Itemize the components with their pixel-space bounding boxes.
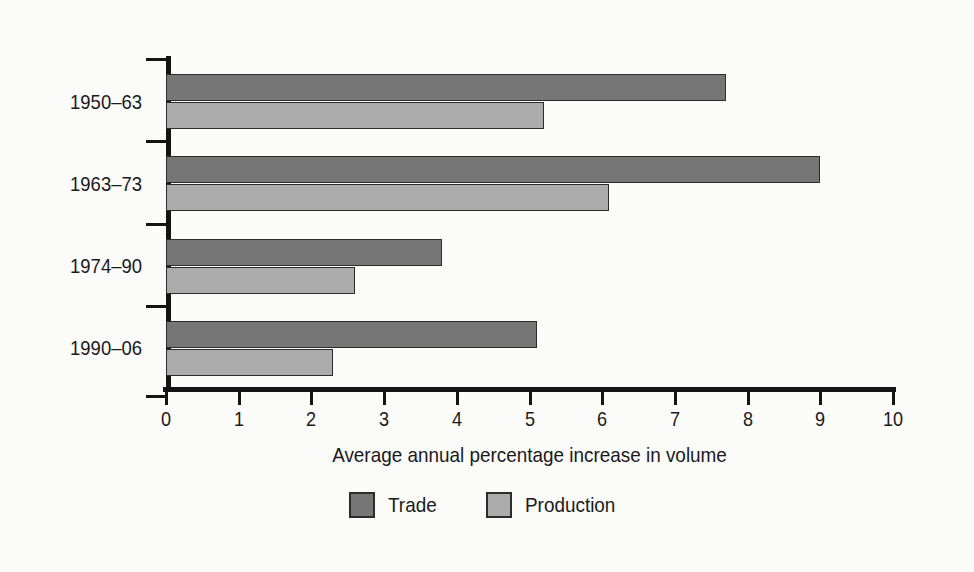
- x-axis-tick: [674, 392, 677, 405]
- y-axis-group-tick: [146, 395, 167, 398]
- bar-trade-1990-06: [166, 321, 537, 348]
- bar-production-1950-63: [166, 102, 544, 129]
- x-axis-title: Average annual percentage increase in vo…: [202, 443, 856, 467]
- x-axis-tick: [310, 392, 313, 405]
- x-axis-tick-label: 7: [658, 407, 692, 431]
- x-axis-tick-label: 1: [221, 407, 255, 431]
- x-axis-tick: [892, 392, 895, 405]
- x-axis-tick: [601, 392, 604, 405]
- chart-legend: Trade Production: [0, 492, 974, 518]
- category-label: 1950–63: [28, 91, 142, 113]
- category-label: 1974–90: [28, 255, 142, 277]
- legend-item-production: Production: [486, 492, 625, 518]
- category-label: 1990–06: [28, 337, 142, 359]
- bar-production-1974-90: [166, 267, 355, 294]
- x-axis-tick: [238, 392, 241, 405]
- y-axis-group-tick: [146, 140, 167, 143]
- legend-label-trade: Trade: [388, 493, 437, 517]
- bar-production-1963-73: [166, 184, 609, 211]
- x-axis-tick-label: 4: [440, 407, 474, 431]
- x-axis-tick-label: 3: [367, 407, 401, 431]
- x-axis-tick: [529, 392, 532, 405]
- category-axis-labels: 1950–631963–731974–901990–06: [0, 0, 142, 572]
- bar-trade-1963-73: [166, 156, 820, 183]
- y-axis-group-tick: [146, 223, 167, 226]
- x-axis-tick-label: 10: [876, 407, 910, 431]
- y-axis-group-tick: [146, 305, 167, 308]
- x-axis-tick: [819, 392, 822, 405]
- x-axis-tick-label: 2: [294, 407, 328, 431]
- trade-swatch-icon: [349, 492, 375, 518]
- bar-production-1990-06: [166, 349, 333, 376]
- x-axis-tick-label: 9: [803, 407, 837, 431]
- bar-trade-1950-63: [166, 74, 726, 101]
- x-axis-tick-label: 6: [585, 407, 619, 431]
- x-axis-tick-label: 5: [512, 407, 546, 431]
- x-axis-tick-label: 0: [149, 407, 183, 431]
- production-swatch-icon: [486, 492, 512, 518]
- x-axis-tick: [747, 392, 750, 405]
- legend-item-trade: Trade: [349, 492, 442, 518]
- bar-chart-figure: 1950–631963–731974–901990–06 Average ann…: [0, 0, 974, 572]
- x-axis-tick: [165, 392, 168, 405]
- x-axis-tick: [456, 392, 459, 405]
- bar-trade-1974-90: [166, 239, 442, 266]
- x-axis-tick-label: 8: [730, 407, 764, 431]
- category-label: 1963–73: [28, 173, 142, 195]
- y-axis-group-tick: [146, 58, 167, 61]
- x-axis-tick: [383, 392, 386, 405]
- legend-label-production: Production: [525, 493, 615, 517]
